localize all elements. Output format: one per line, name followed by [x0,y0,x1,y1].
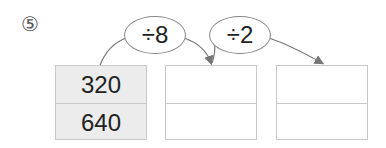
answer-cell[interactable] [277,66,367,104]
arrow-1-right-curve [184,38,211,63]
arrow-1-left-curve [100,38,126,65]
value-box-1: 320 640 [55,65,147,140]
answer-cell[interactable] [277,104,367,141]
answer-cell[interactable] [166,104,256,141]
arrow-2-right-curve [269,38,322,63]
answer-box-3 [276,65,368,140]
operation-oval-divide-8: ÷8 [124,16,186,54]
answer-cell[interactable] [166,66,256,104]
answer-box-2 [165,65,257,140]
value-cell: 640 [56,104,146,141]
value-cell: 320 [56,66,146,104]
operation-oval-divide-2: ÷2 [209,16,271,54]
